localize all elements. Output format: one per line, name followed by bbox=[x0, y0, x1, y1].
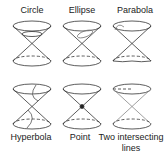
point-dot bbox=[80, 105, 84, 109]
cone-ellipse bbox=[63, 21, 101, 66]
cones-graphic bbox=[0, 0, 166, 155]
cone-circle bbox=[13, 21, 51, 66]
cone-point bbox=[63, 84, 101, 129]
cone-parabola bbox=[113, 21, 151, 62]
cone-hyperbola bbox=[13, 84, 51, 129]
cone-two-lines bbox=[113, 84, 151, 129]
